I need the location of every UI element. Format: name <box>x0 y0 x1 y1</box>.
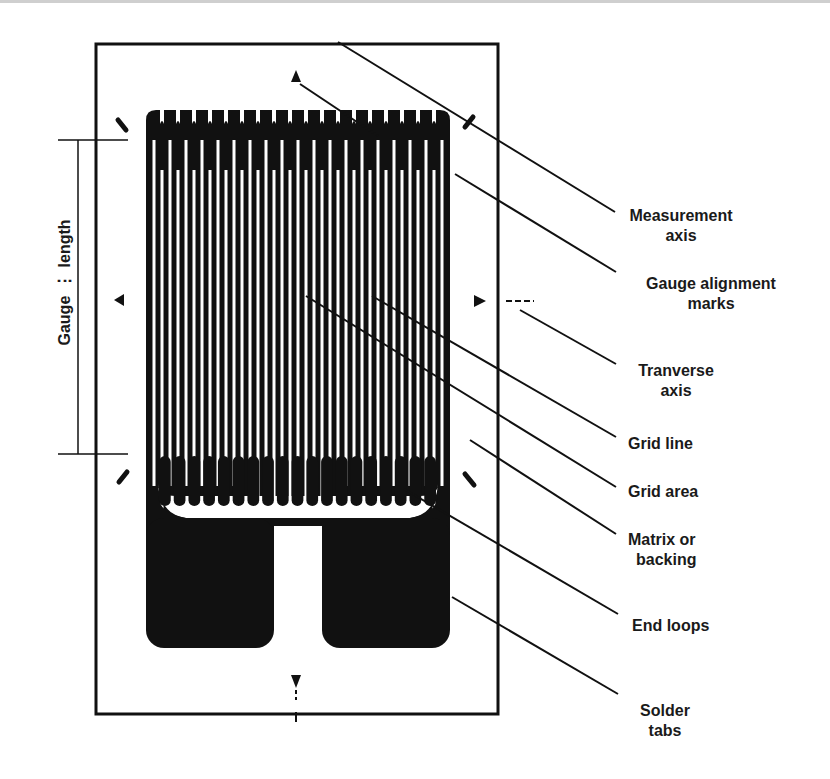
leader-gauge-alignment-marks <box>455 174 616 272</box>
label-line: End loops <box>632 616 709 636</box>
gauge-length-word-2: length <box>56 219 73 267</box>
alignment-mark-bottom-right <box>465 474 474 485</box>
label-line: axis <box>628 381 724 401</box>
label-line: Solder <box>634 701 696 721</box>
gauge-length-word-1: Gauge <box>56 296 73 346</box>
label-line: Grid area <box>628 482 698 502</box>
label-line: backing <box>628 550 696 570</box>
grid-area <box>146 110 450 540</box>
label-transverse-axis: Tranverse axis <box>628 361 724 401</box>
leader-transverse-axis <box>520 310 616 364</box>
label-line: marks <box>628 294 794 314</box>
alignment-mark-top-left <box>118 120 126 130</box>
label-grid-area: Grid area <box>628 482 698 502</box>
measurement-axis-triangle-top <box>291 70 301 82</box>
label-gauge-alignment-marks: Gauge alignment marks <box>628 274 794 314</box>
solder-tab-left <box>146 518 274 648</box>
label-line: Measurement <box>626 206 736 226</box>
solder-tab-right <box>322 518 450 648</box>
label-end-loops: End loops <box>632 616 709 636</box>
label-line: axis <box>626 226 736 246</box>
label-matrix-or-backing: Matrix or backing <box>628 530 696 570</box>
label-line: Gauge alignment <box>628 274 794 294</box>
label-line: Grid line <box>628 434 693 454</box>
leader-solder-tabs <box>452 597 618 694</box>
label-measurement-axis: Measurement axis <box>626 206 736 246</box>
label-line: tabs <box>634 721 696 741</box>
measurement-axis-triangle-bottom <box>291 675 301 688</box>
label-grid-line: Grid line <box>628 434 693 454</box>
label-line: Matrix or <box>628 530 696 550</box>
alignment-mark-bottom-left <box>119 472 127 482</box>
transverse-axis-triangle-left <box>114 294 124 306</box>
leader-matrix-or-backing <box>470 440 616 534</box>
label-line: Tranverse <box>628 361 724 381</box>
label-solder-tabs: Solder tabs <box>634 701 696 741</box>
gauge-length-label: Gauge ⋮ length <box>55 250 74 346</box>
transverse-axis-triangle-right <box>474 295 486 307</box>
